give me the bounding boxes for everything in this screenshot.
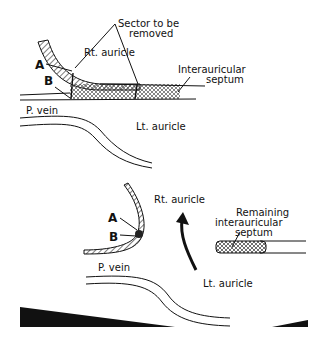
label-remaining-3: septum <box>235 227 273 238</box>
label-p-vein-top: P. vein <box>26 105 58 116</box>
black-wedge-left <box>20 307 175 327</box>
black-wedge-right <box>272 320 308 327</box>
anatomical-diagram: Sector to be removed Rt. auricle A B Int… <box>0 0 323 342</box>
label-lt-auricle-top: Lt. auricle <box>136 121 186 132</box>
label-lt-auricle-bottom: Lt. auricle <box>203 278 253 289</box>
label-sector-2: removed <box>129 28 173 39</box>
junction-ab <box>135 230 143 238</box>
label-rt-auricle-bottom: Rt. auricle <box>154 194 205 205</box>
label-b-top: B <box>44 74 53 88</box>
label-septum-2: septum <box>206 74 244 85</box>
septum-band <box>70 84 180 99</box>
top-panel: Sector to be removed Rt. auricle A B Int… <box>20 18 247 168</box>
label-rt-auricle-top: Rt. auricle <box>84 47 135 58</box>
arrow-head-icon <box>176 212 189 225</box>
label-a-top: A <box>35 58 45 72</box>
label-p-vein-bottom: P. vein <box>98 262 130 273</box>
label-b-bottom: B <box>109 230 118 244</box>
flow-arrow <box>182 220 196 270</box>
remaining-septum <box>216 241 266 253</box>
label-a-bottom: A <box>108 211 118 225</box>
bottom-panel: Rt. auricle A B Remaining interauricular… <box>20 183 308 327</box>
